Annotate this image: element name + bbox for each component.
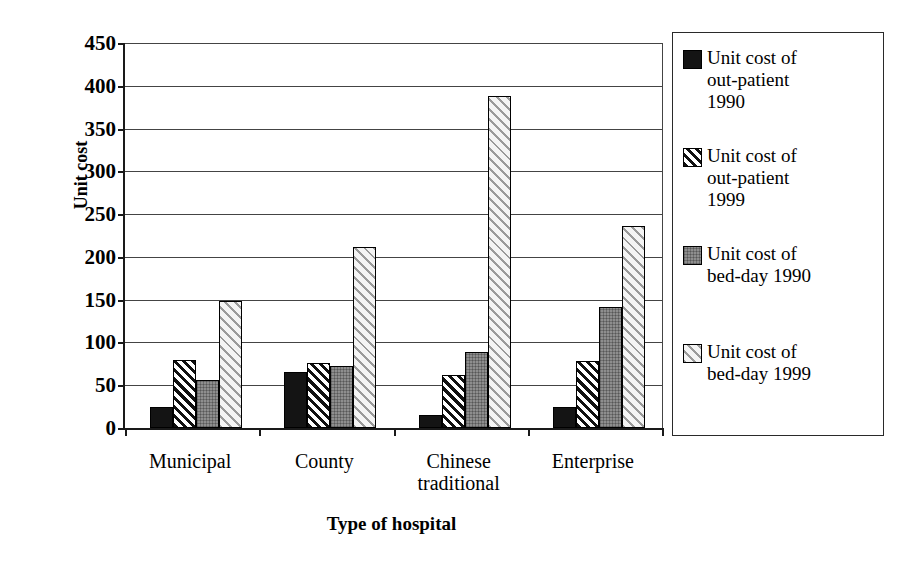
x-category-label: Chinesetraditional bbox=[392, 450, 526, 495]
x-tick-mark bbox=[125, 428, 127, 436]
bar bbox=[553, 407, 576, 428]
bar-group bbox=[284, 43, 376, 428]
y-tick-mark bbox=[118, 257, 125, 259]
y-tick-label: 250 bbox=[40, 204, 116, 225]
legend-swatch-icon bbox=[683, 246, 702, 265]
y-tick-label: 200 bbox=[40, 246, 116, 267]
x-category-label: Municipal bbox=[123, 450, 257, 472]
legend-item-label-line: out-patient bbox=[707, 69, 879, 91]
bar bbox=[196, 380, 219, 428]
bar bbox=[219, 301, 242, 428]
legend-item-label-line: bed-day 1999 bbox=[707, 363, 879, 385]
x-tick-mark bbox=[528, 428, 530, 436]
bar bbox=[576, 361, 599, 428]
legend-item-label-line: 1990 bbox=[707, 91, 879, 113]
legend-item[interactable]: Unit cost ofout-patient1999 bbox=[683, 145, 879, 211]
y-tick-label: 50 bbox=[40, 375, 116, 396]
bar bbox=[419, 415, 442, 428]
plot-right-edge bbox=[662, 43, 663, 428]
y-tick-label: 300 bbox=[40, 161, 116, 182]
x-axis-title: Type of hospital bbox=[123, 513, 660, 535]
x-category-label-line: County bbox=[257, 450, 391, 472]
legend-item-label-line: Unit cost of bbox=[707, 145, 879, 167]
y-tick-mark bbox=[118, 300, 125, 302]
legend-item-label-line: bed-day 1990 bbox=[707, 265, 879, 287]
bar-group bbox=[419, 43, 511, 428]
bar bbox=[622, 226, 645, 428]
bar bbox=[173, 360, 196, 428]
legend: Unit cost ofout-patient1990Unit cost ofo… bbox=[672, 32, 884, 436]
bar-chart: Unit cost 450400350300250200150100500 Mu… bbox=[0, 0, 903, 566]
x-category-label-line: Municipal bbox=[123, 450, 257, 472]
legend-item-label: Unit cost ofbed-day 1999 bbox=[707, 341, 879, 385]
y-tick-mark bbox=[118, 129, 125, 131]
plot-area bbox=[123, 43, 662, 430]
y-tick-label: 150 bbox=[40, 289, 116, 310]
legend-item-label: Unit cost ofout-patient1999 bbox=[707, 145, 879, 211]
bar bbox=[330, 366, 353, 428]
y-tick-mark bbox=[118, 385, 125, 387]
legend-swatch-icon bbox=[683, 344, 702, 363]
y-tick-mark bbox=[118, 86, 125, 88]
bar bbox=[599, 307, 622, 428]
y-tick-label: 400 bbox=[40, 75, 116, 96]
x-tick-mark bbox=[662, 428, 664, 436]
bar-group bbox=[553, 43, 645, 428]
y-tick-mark bbox=[118, 171, 125, 173]
legend-item[interactable]: Unit cost ofbed-day 1990 bbox=[683, 243, 879, 287]
y-tick-mark bbox=[118, 342, 125, 344]
legend-swatch-icon bbox=[683, 50, 702, 69]
bar-group bbox=[150, 43, 242, 428]
bar bbox=[442, 375, 465, 428]
x-tick-mark bbox=[259, 428, 261, 436]
bar bbox=[465, 352, 488, 428]
bar bbox=[353, 247, 376, 428]
x-category-label: Enterprise bbox=[526, 450, 660, 472]
x-category-label-line: Chinese bbox=[392, 450, 526, 472]
y-axis-tick-labels: 450400350300250200150100500 bbox=[40, 0, 116, 566]
y-tick-label: 450 bbox=[40, 33, 116, 54]
legend-item-label-line: Unit cost of bbox=[707, 243, 879, 265]
legend-item[interactable]: Unit cost ofbed-day 1999 bbox=[683, 341, 879, 385]
bar bbox=[307, 363, 330, 428]
y-tick-label: 350 bbox=[40, 118, 116, 139]
y-tick-label: 100 bbox=[40, 332, 116, 353]
bar bbox=[488, 96, 511, 428]
legend-item-label-line: 1999 bbox=[707, 189, 879, 211]
y-tick-label: 0 bbox=[40, 418, 116, 439]
y-tick-mark bbox=[118, 214, 125, 216]
x-category-label-line: Enterprise bbox=[526, 450, 660, 472]
y-tick-mark bbox=[118, 428, 125, 430]
legend-item-label-line: Unit cost of bbox=[707, 47, 879, 69]
legend-item-label: Unit cost ofbed-day 1990 bbox=[707, 243, 879, 287]
x-category-label-line: traditional bbox=[392, 472, 526, 494]
y-tick-mark bbox=[118, 43, 125, 45]
legend-item-label-line: out-patient bbox=[707, 167, 879, 189]
legend-item[interactable]: Unit cost ofout-patient1990 bbox=[683, 47, 879, 113]
bar bbox=[150, 407, 173, 428]
x-category-label: County bbox=[257, 450, 391, 472]
legend-swatch-icon bbox=[683, 148, 702, 167]
legend-item-label: Unit cost ofout-patient1990 bbox=[707, 47, 879, 113]
bar bbox=[284, 372, 307, 428]
legend-item-label-line: Unit cost of bbox=[707, 341, 879, 363]
x-tick-mark bbox=[394, 428, 396, 436]
